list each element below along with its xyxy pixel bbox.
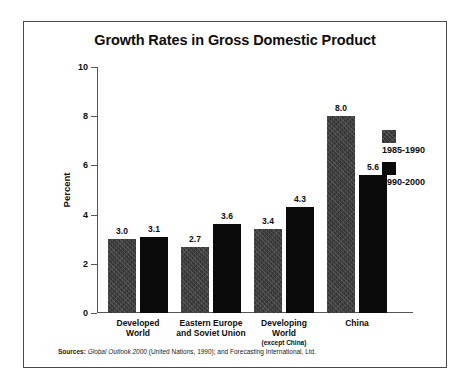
y-tick-mark	[91, 116, 97, 117]
legend-entry[interactable]: 1985-1990	[382, 130, 446, 155]
bar[interactable]: 5.6	[359, 175, 387, 313]
chart-legend: 1985-19901990-2000	[382, 130, 446, 194]
y-tick-label: 8	[83, 111, 88, 121]
y-axis-title: Percent	[61, 173, 72, 208]
bar[interactable]: 8.0	[327, 116, 355, 313]
x-category-label: China	[302, 319, 412, 329]
y-tick-label: 10	[78, 62, 88, 72]
bar-value-label: 8.0	[335, 103, 347, 113]
legend-label: 1985-1990	[382, 145, 446, 155]
x-category-line: Developed	[117, 318, 160, 328]
bar-group: 2.73.6Eastern Europeand Soviet Union	[181, 67, 241, 313]
bar[interactable]: 3.1	[140, 237, 168, 313]
y-tick-label: 2	[83, 259, 88, 269]
bar-group: 3.03.1DevelopedWorld	[108, 67, 168, 313]
bar-value-label: 3.4	[262, 216, 274, 226]
source-rest: (United Nations, 1990); and Forecasting …	[149, 348, 316, 355]
chart-title: Growth Rates in Gross Domestic Product	[24, 32, 446, 48]
y-tick-mark	[91, 215, 97, 216]
bar-value-label: 3.0	[116, 226, 128, 236]
y-tick-label: 4	[83, 210, 88, 220]
y-tick-mark	[91, 264, 97, 265]
x-category-line: Developing	[261, 318, 307, 328]
plot-area: Percent 0246810 3.03.1DevelopedWorld2.73…	[97, 67, 413, 313]
bar[interactable]: 4.3	[286, 207, 314, 313]
bar-group: 3.44.3DevelopingWorld(except China)	[254, 67, 314, 313]
bar[interactable]: 2.7	[181, 247, 209, 313]
bar-value-label: 5.6	[367, 162, 379, 172]
bar-value-label: 3.1	[148, 224, 160, 234]
figure-frame: Growth Rates in Gross Domestic Product P…	[23, 21, 447, 368]
y-tick-mark	[91, 165, 97, 166]
bar-value-label: 4.3	[294, 194, 306, 204]
x-category-line: World	[272, 328, 296, 338]
bar-value-label: 3.6	[221, 211, 233, 221]
legend-label: 1990-2000	[382, 177, 446, 187]
x-category-line: China	[345, 318, 369, 328]
legend-swatch	[382, 130, 396, 143]
source-title: Global Outlook 2000	[88, 348, 147, 355]
x-category-sublabel: (except China)	[229, 339, 339, 347]
y-axis-line	[97, 67, 98, 313]
bar-group: 8.05.6China	[327, 67, 387, 313]
x-category-line: World	[126, 328, 150, 338]
bar[interactable]: 3.0	[108, 239, 136, 313]
y-tick-mark	[91, 313, 97, 314]
y-tick-mark	[91, 67, 97, 68]
source-note: Sources: Global Outlook 2000 (United Nat…	[58, 348, 316, 355]
source-label: Sources:	[58, 348, 86, 355]
bar[interactable]: 3.6	[213, 224, 241, 313]
bar[interactable]: 3.4	[254, 229, 282, 313]
legend-entry[interactable]: 1990-2000	[382, 162, 446, 187]
y-tick-label: 6	[83, 160, 88, 170]
y-tick-label: 0	[83, 308, 88, 318]
legend-swatch	[382, 162, 396, 175]
bar-value-label: 2.7	[189, 234, 201, 244]
